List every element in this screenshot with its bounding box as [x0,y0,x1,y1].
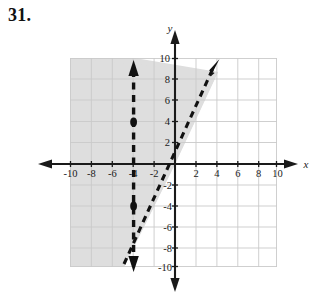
x-tick-label: 2 [193,168,198,179]
y-tick-label: -8 [163,243,172,254]
x-tick-label: -10 [64,168,78,179]
x-axis-left-arrowhead [38,159,52,168]
x-axis-label: x [303,158,309,170]
figure-page: 31. [0,0,320,292]
graph-svg: -10 -8 -6 -4 -2 2 4 6 8 10 10 8 6 4 2 -2… [0,0,320,292]
y-tick-label: 2 [165,137,170,148]
y-tick-label: 6 [165,95,170,106]
x-tick-label: -6 [108,168,117,179]
x-tick-label: 8 [256,168,261,179]
shaded-solution-region-lower [70,164,175,267]
x-tick-label: 4 [214,168,220,179]
y-tick-label: 8 [165,74,170,85]
x-tick-label: -2 [150,168,159,179]
y-tick-label: -2 [163,180,172,191]
x-tick-label: -8 [87,168,96,179]
y-axis-label: y [167,22,173,34]
coordinate-plane-figure: -10 -8 -6 -4 -2 2 4 6 8 10 10 8 6 4 2 -2… [0,0,320,292]
x-tick-label: 6 [235,168,240,179]
vertical-line-marker-lower [130,201,137,210]
y-tick-label: 4 [165,116,171,127]
y-tick-label: 10 [160,53,171,64]
x-axis-right-arrowhead [284,159,298,168]
y-axis-bottom-arrowhead [170,278,179,292]
y-tick-label: -4 [163,201,172,212]
x-tick-label: 10 [272,168,283,179]
vertical-line-marker-upper [130,117,137,126]
vertical-lower-arrowhead [128,256,138,272]
y-tick-label: -10 [158,262,172,273]
y-tick-label: -6 [163,222,172,233]
